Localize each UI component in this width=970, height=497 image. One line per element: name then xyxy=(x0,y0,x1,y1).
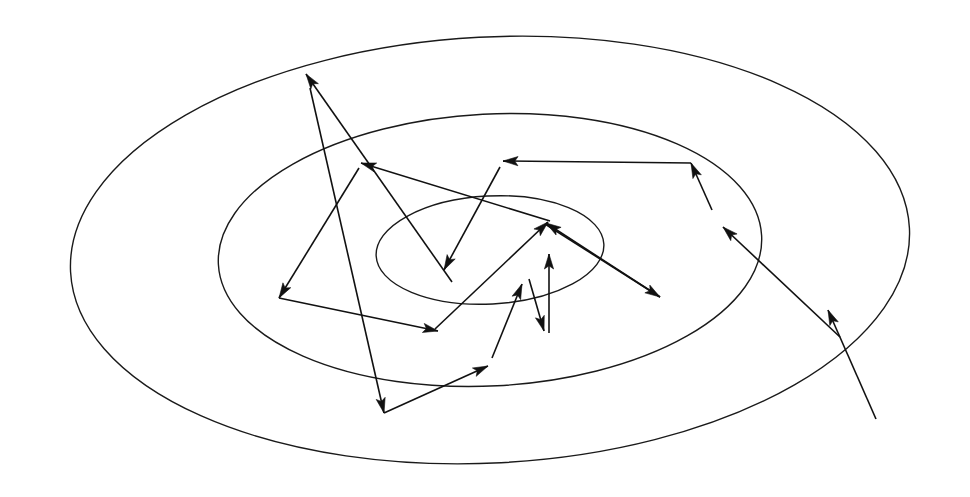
figure-canvas: Iterative descent path across elliptical… xyxy=(0,0,970,497)
contour-descent-diagram: Iterative descent path across elliptical… xyxy=(0,0,970,497)
figure-background xyxy=(0,0,970,497)
